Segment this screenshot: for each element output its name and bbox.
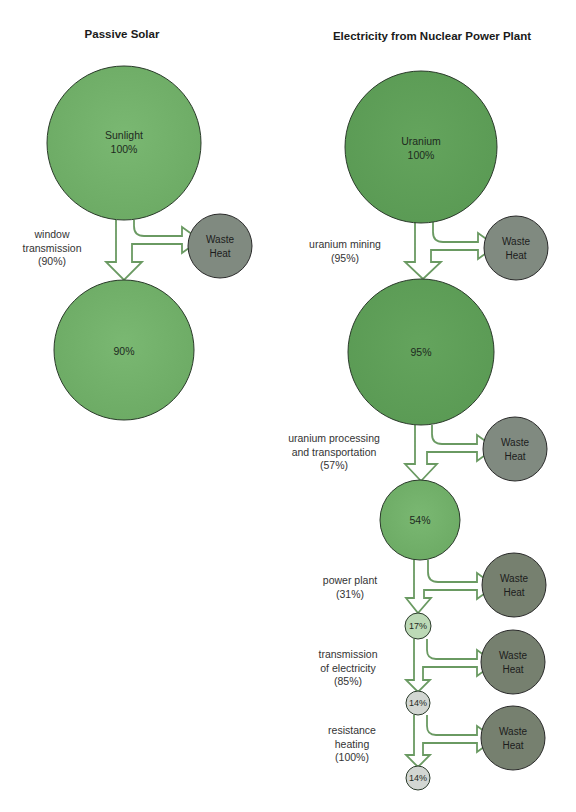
waste-heat-node: Waste Heat xyxy=(482,553,546,617)
svg-text:14%: 14% xyxy=(409,773,427,783)
step-label-transmission-electricity: transmission of electricity (85%) xyxy=(319,648,378,689)
svg-text:14%: 14% xyxy=(409,698,427,708)
step-label-resistance-heating: resistance heating (100%) xyxy=(328,724,376,765)
flow-arrow-icon xyxy=(106,220,200,280)
svg-text:Heat: Heat xyxy=(504,451,525,462)
waste-heat-node: Waste Heat xyxy=(481,630,545,694)
sunlight-label: Sunlight xyxy=(105,129,143,141)
svg-text:Waste: Waste xyxy=(500,573,528,584)
flow-arrow-icon xyxy=(405,222,496,279)
svg-text:Heat: Heat xyxy=(503,587,524,598)
result-value: 90% xyxy=(113,345,134,357)
uranium-label: Uranium xyxy=(401,135,441,147)
svg-text:Waste: Waste xyxy=(502,236,530,247)
svg-text:Heat: Heat xyxy=(502,664,523,675)
waste-heat-node: Waste Heat xyxy=(483,417,547,481)
sunlight-value: 100% xyxy=(111,143,138,155)
step-label-power-plant: power plant (31%) xyxy=(323,574,377,601)
svg-text:Heat: Heat xyxy=(505,250,526,261)
svg-text:54%: 54% xyxy=(409,514,430,526)
uranium-value: 100% xyxy=(408,149,435,161)
waste-heat-node xyxy=(188,214,252,278)
uranium-node xyxy=(345,71,497,223)
flow-arrow-icon xyxy=(405,425,495,481)
svg-text:Heat: Heat xyxy=(209,248,230,259)
svg-text:Waste: Waste xyxy=(206,234,234,245)
energy-flow-diagram: Sunlight 100% Waste Heat 90% Uranium 100… xyxy=(0,0,576,812)
waste-heat-node: Waste Heat xyxy=(481,706,545,770)
step-label-window-transmission: window transmission (90%) xyxy=(23,228,82,269)
svg-text:Waste: Waste xyxy=(499,726,527,737)
svg-text:Heat: Heat xyxy=(502,740,523,751)
step-label-uranium-mining: uranium mining (95%) xyxy=(309,238,381,265)
svg-text:95%: 95% xyxy=(410,346,431,358)
svg-text:17%: 17% xyxy=(409,621,427,631)
step-label-processing: uranium processing and transportation (5… xyxy=(288,432,380,473)
svg-text:Waste: Waste xyxy=(501,437,529,448)
waste-heat-node: Waste Heat xyxy=(484,216,548,280)
svg-text:Waste: Waste xyxy=(499,650,527,661)
